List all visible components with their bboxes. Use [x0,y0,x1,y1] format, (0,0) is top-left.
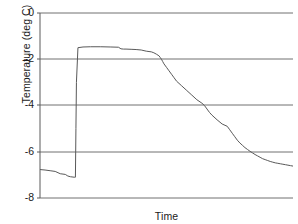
plot-canvas [0,0,298,224]
gridlines [40,13,293,198]
temperature-series-line [40,47,293,177]
chart-figure: Temperature (deg C) Time 0 -2 -4 -6 -8 [0,0,298,224]
axis-lines [37,13,40,198]
